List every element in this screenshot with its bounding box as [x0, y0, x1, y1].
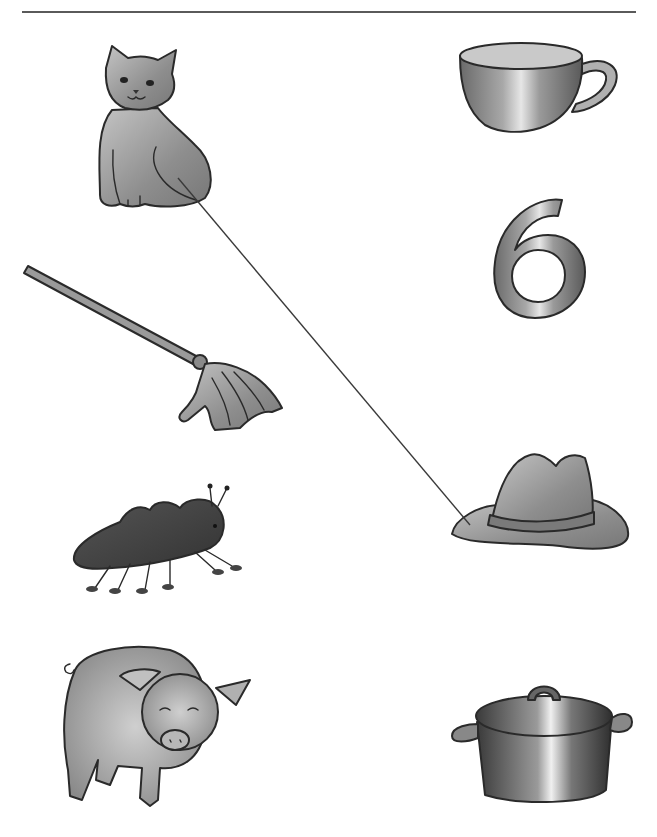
cat-picture[interactable] [99, 46, 210, 206]
pot-picture[interactable] [452, 687, 632, 803]
cup-picture[interactable] [460, 43, 617, 132]
six-picture[interactable] [494, 200, 585, 318]
ant-picture[interactable] [74, 484, 242, 595]
hat-picture[interactable] [452, 454, 628, 548]
mop-picture[interactable] [24, 266, 282, 430]
match-line-cat-hat[interactable] [178, 178, 470, 525]
pig-picture[interactable] [64, 647, 250, 806]
worksheet-canvas [0, 0, 657, 837]
